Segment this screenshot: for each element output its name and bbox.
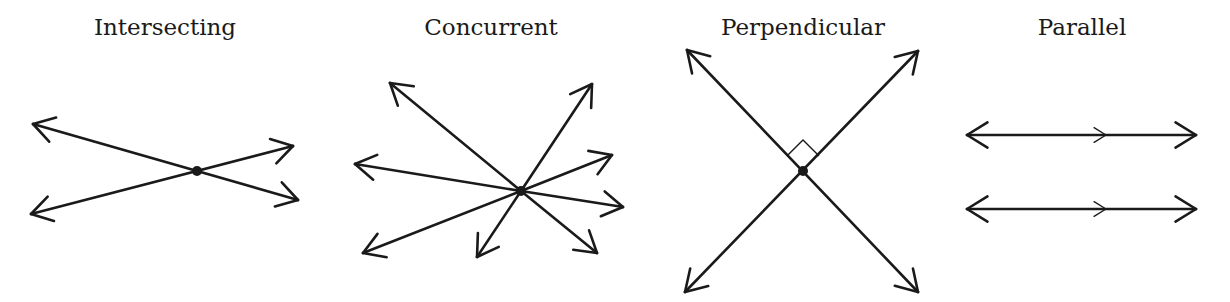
arrowhead-icon <box>477 233 478 257</box>
arrowhead-icon <box>270 139 293 146</box>
arrowhead-icon <box>1176 122 1196 135</box>
arrowhead-icon <box>591 84 592 108</box>
arrowhead-icon <box>967 209 987 222</box>
arrowhead-icon <box>31 214 54 221</box>
arrowhead-icon <box>355 155 377 164</box>
arrowhead-icon <box>967 135 987 148</box>
line <box>31 146 293 214</box>
arrowhead-icon <box>967 122 987 135</box>
point-dot <box>192 166 202 176</box>
arrowhead-icon <box>33 118 56 124</box>
geometry-lines-diagram: Intersecting Concurrent Perpendicular Pa… <box>0 0 1230 302</box>
intersecting-lines-figure <box>31 118 298 221</box>
point-dot <box>798 166 808 176</box>
arrowhead-icon <box>967 196 987 209</box>
arrowhead-icon <box>275 200 298 206</box>
point-dot <box>516 186 526 196</box>
right-angle-marker-icon <box>787 140 818 156</box>
line-figures <box>0 0 1230 302</box>
parallel-lines-figure <box>967 122 1196 221</box>
arrowhead-icon <box>1176 209 1196 222</box>
line <box>33 124 298 200</box>
arrowhead-icon <box>1176 135 1196 148</box>
ray <box>390 83 521 191</box>
ray <box>363 191 521 253</box>
ray <box>355 164 521 191</box>
perpendicular-lines-figure <box>685 50 918 292</box>
arrowhead-icon <box>1176 196 1196 209</box>
ray <box>521 84 592 191</box>
arrowhead-icon <box>588 151 612 155</box>
concurrent-lines-figure <box>355 83 623 257</box>
arrowhead-icon <box>601 207 623 216</box>
arrowhead-icon <box>363 253 387 257</box>
